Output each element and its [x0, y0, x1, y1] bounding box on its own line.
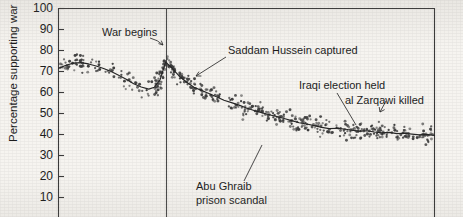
y-axis-ticks [59, 9, 65, 198]
annotation-zarqawi-killed: al Zarqawi killed [345, 94, 424, 106]
y-tick-20: 20 [40, 169, 54, 183]
annotation-saddam-captured: Saddam Hussein captured [228, 44, 358, 56]
y-tick-50: 50 [40, 106, 54, 120]
abu-ghraib-leader [244, 145, 262, 181]
y-tick-80: 80 [40, 43, 54, 57]
annotation-leaders [150, 38, 386, 181]
annotation-war-begins: War begins [102, 26, 158, 38]
y-tick-10: 10 [40, 190, 54, 204]
annotation-abu-ghraib-line1: Abu Ghraib [196, 180, 252, 192]
y-tick-40: 40 [40, 127, 54, 141]
annotation-iraqi-election: Iraqi election held [299, 79, 385, 91]
y-tick-30: 30 [40, 148, 54, 162]
saddam-captured-leader [196, 57, 226, 76]
scatter-plot-canvas: Percentage supporting war 100 90 80 70 6… [0, 0, 463, 217]
y-axis-label: Percentage supporting war [7, 4, 19, 142]
y-tick-60: 60 [40, 85, 54, 99]
chart-figure: Percentage supporting war 100 90 80 70 6… [0, 0, 463, 217]
y-tick-100: 100 [33, 1, 53, 15]
annotation-abu-ghraib-line2: prison scandal [196, 194, 267, 206]
y-tick-70: 70 [40, 64, 54, 78]
y-axis-tick-labels: 100 90 80 70 60 50 40 30 20 10 [33, 1, 53, 204]
y-tick-90: 90 [40, 22, 54, 36]
